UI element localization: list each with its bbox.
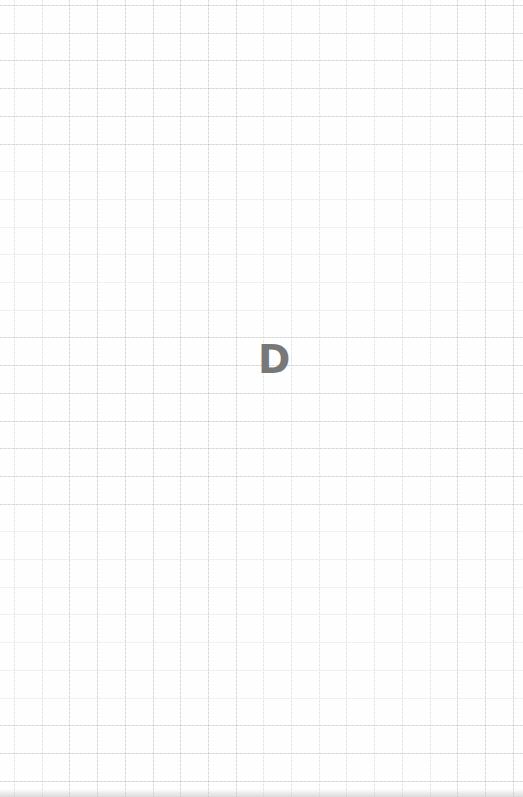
center-letter: D bbox=[258, 338, 290, 382]
bottom-edge-shadow bbox=[0, 789, 523, 797]
grid-paper-background bbox=[0, 0, 523, 797]
